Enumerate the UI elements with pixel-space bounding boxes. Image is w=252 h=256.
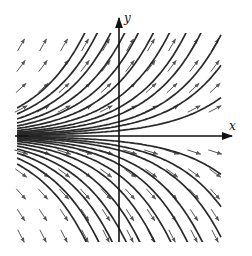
slope-arrow bbox=[147, 60, 155, 71]
slope-arrow bbox=[38, 189, 47, 199]
slope-arrow bbox=[81, 209, 89, 221]
slope-arrow bbox=[61, 39, 68, 51]
x-axis-label: x bbox=[229, 119, 236, 133]
slope-arrow bbox=[169, 39, 176, 51]
slope-arrow bbox=[39, 209, 47, 221]
slope-arrow bbox=[211, 209, 219, 221]
slope-arrow bbox=[146, 189, 155, 199]
y-axis-label: y bbox=[123, 11, 131, 25]
direction-field-plot: x y bbox=[0, 0, 252, 256]
slope-arrow bbox=[18, 230, 24, 242]
solution-curve bbox=[17, 27, 189, 132]
slope-arrow bbox=[17, 60, 25, 71]
slope-arrow bbox=[167, 83, 177, 92]
slope-arrow bbox=[60, 209, 68, 221]
slope-arrow bbox=[189, 189, 198, 199]
solution-curve bbox=[17, 24, 89, 108]
slope-arrow bbox=[190, 60, 198, 71]
slope-arrow bbox=[210, 83, 220, 92]
solution-curve bbox=[17, 164, 89, 248]
slope-arrow bbox=[40, 39, 47, 51]
slope-arrow bbox=[102, 60, 110, 71]
slope-arrow bbox=[127, 230, 133, 242]
slope-arrow bbox=[15, 169, 26, 177]
slope-arrow bbox=[187, 150, 200, 154]
slope-arrow bbox=[16, 83, 26, 92]
solution-curve bbox=[17, 139, 205, 248]
slope-arrow bbox=[40, 230, 46, 242]
slope-arrow bbox=[190, 209, 198, 221]
slope-arrow bbox=[61, 230, 67, 242]
slope-arrow bbox=[209, 106, 221, 112]
slope-arrow bbox=[100, 169, 111, 177]
slope-arrow bbox=[38, 83, 48, 92]
slope-arrow bbox=[208, 150, 221, 154]
slope-arrow bbox=[37, 106, 49, 112]
slope-arrow bbox=[18, 39, 25, 51]
slope-arrow bbox=[16, 189, 25, 199]
slope-arrow bbox=[39, 60, 47, 71]
slope-arrow bbox=[17, 209, 25, 221]
